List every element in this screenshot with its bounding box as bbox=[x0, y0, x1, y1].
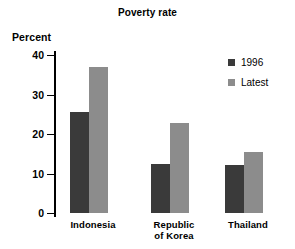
bar-thailand-1996 bbox=[225, 165, 244, 213]
x-category-label-indonesia: Indonesia bbox=[48, 219, 138, 230]
legend-item-latest: Latest bbox=[228, 77, 268, 88]
y-tick-40 bbox=[47, 55, 54, 56]
bar-thailand-latest bbox=[244, 152, 263, 213]
bar-indonesia-latest bbox=[89, 67, 108, 213]
legend-label-latest: Latest bbox=[241, 77, 268, 88]
y-axis-label: Percent bbox=[12, 31, 51, 43]
y-tick-label-40: 40 bbox=[2, 50, 44, 61]
bar-indonesia-1996 bbox=[70, 112, 89, 213]
x-category-label-republic-of-korea-line-2: of Korea bbox=[129, 230, 219, 241]
x-category-label-indonesia-line-1: Indonesia bbox=[48, 219, 138, 230]
legend-swatch-1996-icon bbox=[228, 59, 235, 66]
y-tick-20 bbox=[47, 134, 54, 135]
legend-label-1996: 1996 bbox=[241, 57, 263, 68]
y-tick-10 bbox=[47, 174, 54, 175]
legend-swatch-latest-icon bbox=[228, 79, 235, 86]
x-category-label-thailand-line-1: Thailand bbox=[203, 219, 293, 230]
legend-item-1996: 1996 bbox=[228, 57, 268, 68]
chart-title: Poverty rate bbox=[0, 7, 295, 18]
y-tick-label-0: 0 bbox=[2, 208, 44, 219]
bar-republic-of-korea-1996 bbox=[151, 164, 170, 213]
y-tick-label-10: 10 bbox=[2, 169, 44, 180]
bar-republic-of-korea-latest bbox=[170, 123, 189, 213]
chart-legend: 1996 Latest bbox=[228, 57, 268, 97]
y-tick-0 bbox=[47, 213, 54, 214]
y-axis-line bbox=[54, 51, 56, 217]
y-tick-30 bbox=[47, 95, 54, 96]
poverty-rate-chart: Poverty rate Percent 40 30 20 10 0 Indon… bbox=[0, 0, 295, 249]
x-category-label-thailand: Thailand bbox=[203, 219, 293, 230]
y-tick-label-30: 30 bbox=[2, 90, 44, 101]
y-tick-label-20: 20 bbox=[2, 129, 44, 140]
